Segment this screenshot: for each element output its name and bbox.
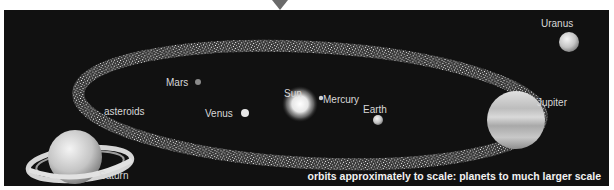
pointer-triangle-icon: [272, 0, 288, 10]
scale-caption: orbits approximately to scale: planets t…: [307, 170, 601, 182]
label-sun: Sun: [284, 88, 302, 99]
label-mars: Mars: [166, 77, 188, 88]
venus-body: [241, 109, 249, 117]
label-asteroids: asteroids: [104, 106, 145, 117]
label-earth: Earth: [363, 104, 387, 115]
label-venus: Venus: [205, 108, 233, 119]
label-uranus: Uranus: [541, 18, 573, 29]
solar-system-diagram: Uranus Mars Sun Mercury asteroids Venus …: [4, 10, 609, 186]
label-saturn: Saturn: [99, 170, 128, 181]
label-mercury: Mercury: [323, 94, 359, 105]
earth-body: [373, 115, 383, 125]
uranus-body: [559, 32, 579, 52]
label-jupiter: Jupiter: [537, 97, 567, 108]
mars-body: [195, 79, 201, 85]
